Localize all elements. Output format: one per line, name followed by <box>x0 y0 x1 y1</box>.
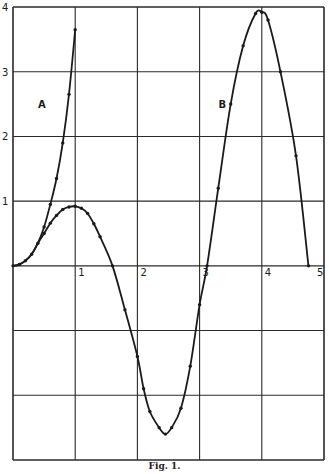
figure-caption: Fig. 1. <box>0 461 329 471</box>
data-point <box>307 264 310 267</box>
data-point <box>74 205 77 208</box>
y-tick-label: 3 <box>2 67 8 78</box>
x-tick-label: 2 <box>140 267 146 278</box>
data-point <box>205 264 208 267</box>
data-point <box>49 203 52 206</box>
y-tick-label: 4 <box>2 2 8 13</box>
data-point <box>217 187 220 190</box>
data-point <box>136 355 139 358</box>
data-point <box>142 387 145 390</box>
data-point <box>179 407 182 410</box>
data-point <box>80 207 83 210</box>
y-tick-label: 2 <box>2 131 8 142</box>
grid <box>13 7 324 460</box>
data-point <box>67 93 70 96</box>
y-tick-label: 1 <box>2 196 8 207</box>
data-point <box>279 70 282 73</box>
curve-label-a: A <box>38 99 46 110</box>
data-point <box>49 221 52 224</box>
data-point <box>86 212 89 215</box>
data-point <box>266 18 269 21</box>
figure-chart: 123451234 AB <box>0 0 329 474</box>
data-point <box>111 264 114 267</box>
data-point <box>55 177 58 180</box>
data-point <box>74 28 77 31</box>
data-point <box>42 225 45 228</box>
data-point <box>67 205 70 208</box>
data-point <box>61 208 64 211</box>
data-point <box>92 222 95 225</box>
data-point <box>148 410 151 413</box>
data-point <box>241 44 244 47</box>
data-point <box>189 364 192 367</box>
x-tick-label: 5 <box>317 267 323 278</box>
data-point <box>61 141 64 144</box>
x-tick-label: 1 <box>78 267 84 278</box>
data-point <box>98 235 101 238</box>
data-point <box>294 154 297 157</box>
data-point <box>229 102 232 105</box>
data-point <box>170 426 173 429</box>
data-point <box>254 12 257 15</box>
data-point <box>123 308 126 311</box>
data-point <box>55 214 58 217</box>
data-point <box>157 426 160 429</box>
curve-b <box>13 10 308 434</box>
curve-label-b: B <box>218 99 226 110</box>
data-point <box>42 232 45 235</box>
data-point <box>198 303 201 306</box>
annotations: AB <box>38 99 226 110</box>
x-tick-label: 4 <box>265 267 271 278</box>
curves <box>11 10 310 436</box>
data-point <box>260 10 263 13</box>
curve-a <box>13 30 75 266</box>
data-point <box>164 432 167 435</box>
